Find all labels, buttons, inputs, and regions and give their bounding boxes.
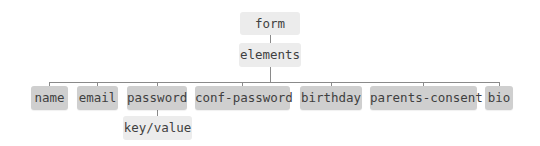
connector-form-elements [270, 35, 271, 43]
node-bio: bio [485, 86, 513, 110]
node-form: form [240, 12, 300, 35]
connector-bus [49, 82, 500, 83]
node-parents-consent: parents-consent [370, 86, 477, 110]
node-key-value: key/value [123, 116, 192, 140]
node-password: password [127, 86, 187, 110]
node-birthday: birthday [300, 86, 362, 110]
node-email: email [77, 86, 118, 110]
node-conf-password: conf-password [195, 86, 290, 110]
node-elements: elements [239, 43, 301, 67]
connector-elements-bus [270, 67, 271, 83]
node-name: name [31, 86, 68, 110]
